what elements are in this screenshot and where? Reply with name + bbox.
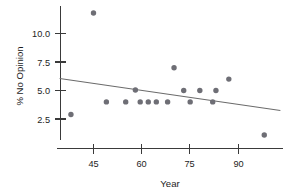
y-tick-label-2-5: 2.5 [37, 115, 50, 125]
y-tick-label-5: 5.0 [37, 86, 50, 96]
data-point [197, 88, 202, 93]
data-point [146, 99, 151, 104]
x-tick-label-45: 45 [88, 159, 98, 169]
y-tick-label-10: 10.0 [32, 29, 50, 39]
data-point [91, 10, 96, 15]
chart-canvas: 10.0 7.5 5.0 2.5 45 60 75 90 Year % No O… [0, 0, 301, 191]
data-point [210, 99, 215, 104]
x-tick-label-60: 60 [136, 159, 146, 169]
data-point [171, 65, 176, 70]
data-point [187, 99, 192, 104]
data-point [262, 132, 267, 137]
x-tick-label-90: 90 [233, 159, 243, 169]
x-axis-title: Year [160, 178, 180, 189]
data-point [133, 87, 138, 92]
data-points-group [68, 10, 267, 137]
data-point [104, 99, 109, 104]
data-point [165, 99, 170, 104]
scatter-chart: 10.0 7.5 5.0 2.5 45 60 75 90 Year % No O… [0, 0, 301, 191]
data-point [181, 88, 186, 93]
data-point [213, 88, 218, 93]
y-axis-title: % No Opinion [14, 46, 25, 105]
data-point [154, 99, 159, 104]
data-point [138, 99, 143, 104]
trend-line [60, 79, 281, 111]
x-tick-label-75: 75 [184, 159, 194, 169]
data-point [226, 76, 231, 81]
data-point [68, 112, 73, 117]
data-point [123, 99, 128, 104]
y-tick-label-7-5: 7.5 [37, 58, 50, 68]
